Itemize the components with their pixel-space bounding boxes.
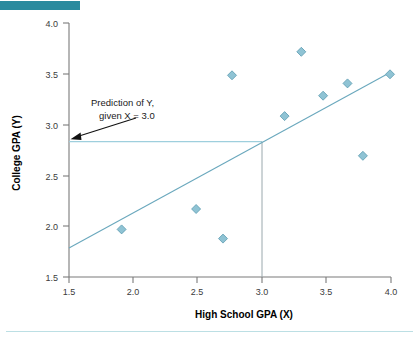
- y-tick-label: 2.0: [45, 222, 58, 232]
- data-point: [117, 225, 126, 234]
- y-axis-tick-labels: 4.0 3.5 3.0 2.5 2.0 1.5: [45, 19, 58, 283]
- data-point: [386, 70, 395, 79]
- x-axis-title: High School GPA (X): [195, 309, 293, 320]
- y-tick-label: 4.0: [45, 19, 58, 29]
- x-axis-ticks: [69, 277, 391, 283]
- x-tick-label: 2.0: [127, 287, 140, 297]
- data-point: [192, 205, 201, 214]
- y-tick-label: 1.5: [45, 273, 58, 283]
- prediction-guides: [69, 142, 262, 277]
- prediction-annotation-arrow: [71, 118, 137, 140]
- data-point: [219, 234, 228, 243]
- x-tick-label: 1.5: [63, 287, 76, 297]
- scatter-plot: 4.0 3.5 3.0 2.5 2.0 1.5 1.5 2.0 2.5 3.0 …: [0, 0, 419, 342]
- y-tick-label: 3.5: [45, 70, 58, 80]
- prediction-annotation-text: Prediction of Y, given X = 3.0: [91, 97, 155, 121]
- x-axis-tick-labels: 1.5 2.0 2.5 3.0 3.5 4.0: [63, 287, 398, 297]
- y-tick-label: 2.5: [45, 172, 58, 182]
- data-points: [117, 47, 394, 243]
- data-point: [343, 79, 352, 88]
- data-point: [358, 151, 367, 160]
- x-tick-label: 3.0: [256, 287, 269, 297]
- y-tick-label: 3.0: [45, 121, 58, 131]
- figure-canvas: 4.0 3.5 3.0 2.5 2.0 1.5 1.5 2.0 2.5 3.0 …: [0, 0, 419, 342]
- y-axis-title: College GPA (Y): [11, 115, 22, 191]
- annotation-line-2: given X = 3.0: [99, 110, 155, 121]
- x-tick-label: 3.5: [320, 287, 333, 297]
- data-point: [280, 112, 289, 121]
- y-axis-ticks: [63, 23, 69, 277]
- data-point: [297, 47, 306, 56]
- x-tick-label: 2.5: [191, 287, 204, 297]
- footer-divider: [6, 331, 413, 332]
- data-point: [228, 71, 237, 80]
- x-tick-label: 4.0: [385, 287, 398, 297]
- data-point: [319, 91, 328, 100]
- annotation-line-1: Prediction of Y,: [91, 97, 154, 108]
